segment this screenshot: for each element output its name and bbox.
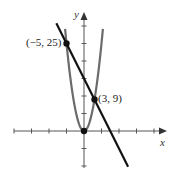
chart: x y (−5, 25) (3, 9) — [0, 0, 174, 182]
x-axis-label: x — [159, 136, 165, 148]
x-axis-arrow-icon — [159, 128, 167, 135]
point-origin — [81, 128, 87, 134]
point-3-9 — [91, 96, 97, 102]
y-axis — [81, 12, 88, 168]
point-label-3-9: (3, 9) — [98, 92, 122, 105]
x-axis — [14, 128, 167, 135]
point-neg5-25 — [63, 40, 69, 46]
point-label-neg5-25: (−5, 25) — [26, 36, 62, 49]
y-axis-label: y — [73, 8, 79, 20]
y-axis-arrow-icon — [81, 12, 88, 20]
